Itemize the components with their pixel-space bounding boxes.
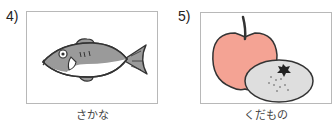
- fruit-icon: [201, 13, 333, 105]
- caption-fish: さかな: [26, 106, 158, 122]
- fish-icon: [27, 12, 159, 105]
- picture-card-fish: [26, 11, 158, 104]
- picture-card-fruit: [200, 12, 332, 104]
- item-number: 4): [6, 8, 18, 24]
- item-number: 5): [178, 8, 190, 24]
- caption-fruit: くだもの: [200, 106, 332, 122]
